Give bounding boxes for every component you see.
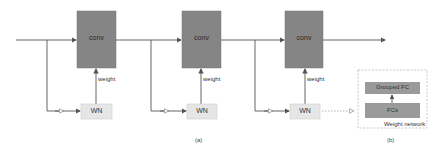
fcs-label: FCs [365, 107, 420, 113]
caption-a: (a) [195, 137, 202, 143]
conv-label-2: conv [182, 34, 221, 41]
weight-label-2: weight [203, 76, 220, 82]
caption-b: (b) [387, 137, 394, 143]
wn-label-1: WN [81, 107, 112, 114]
diagram-canvas [0, 0, 442, 153]
weight-arrows [96, 69, 305, 104]
conv-label-3: conv [285, 34, 323, 41]
weight-network-frame [358, 70, 427, 128]
conv-label-1: conv [77, 34, 116, 41]
weight-network-title: Weight network [384, 121, 425, 127]
weight-label-1: weight [98, 76, 115, 82]
weight-label-3: weight [307, 76, 324, 82]
wn-label-2: WN [187, 107, 217, 114]
wn-label-3: WN [290, 107, 320, 114]
grouped-fc-label: Grouped FC [365, 84, 420, 90]
